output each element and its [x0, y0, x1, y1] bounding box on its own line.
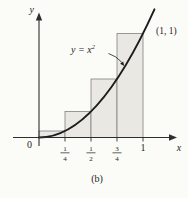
fraction-numerator: 1: [89, 145, 93, 153]
fraction-numerator: 3: [115, 145, 119, 153]
x-axis-label: x: [176, 142, 182, 153]
curve-equation-base: y = x: [70, 44, 92, 55]
fraction-denominator: 4: [115, 155, 119, 163]
riemann-sum-figure: y x 0 1 4 1 2 3 4 1 (1, 1) y = x2 (b): [0, 0, 188, 198]
riemann-rectangle: [117, 34, 143, 138]
figure-caption: (b): [91, 173, 103, 185]
origin-label: 0: [27, 139, 32, 150]
y-axis-label: y: [29, 4, 35, 15]
fraction-denominator: 2: [89, 155, 93, 163]
fraction-denominator: 4: [63, 155, 67, 163]
fraction-numerator: 1: [63, 145, 67, 153]
tick-label-one: 1: [141, 142, 146, 153]
point-label: (1, 1): [156, 26, 177, 37]
